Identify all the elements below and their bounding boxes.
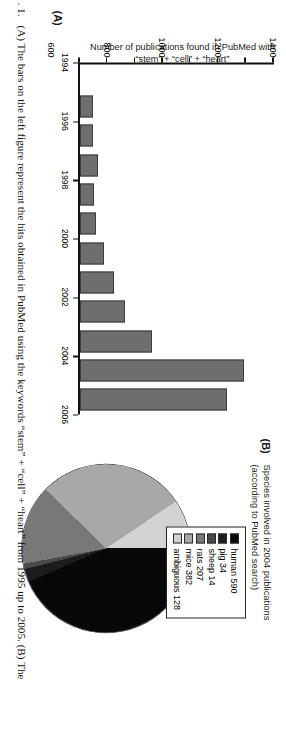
panel-b-tag: (B) [260,438,272,453]
rotated-figure-wrapper: (A) Number of publications found in PubM… [0,0,286,729]
legend-swatch-icon [173,533,182,543]
legend-row: ambiguous 128 [172,533,183,610]
x-tick: 1998 [73,179,78,180]
y-axis-label: Number of publications found in PubMed w… [88,42,278,65]
legend-row: human 590 [229,533,240,610]
bar [80,154,98,176]
y-tick-label: 600 [47,42,57,57]
y-tick-label: 1200 [213,37,223,57]
y-tick-label: 800 [102,42,112,57]
legend-label: ambiguous 128 [172,548,182,610]
legend-swatch-icon [207,533,216,543]
legend-label: mice 382 [184,548,194,585]
bar-plot-area: 0200400600800100012001400 19941996199820… [78,62,274,414]
x-tick-label: 1994 [60,52,70,71]
caption-number: . 1. [15,2,28,16]
y-tick: 600 [161,57,162,62]
bar [80,330,152,352]
panel-b-title-line2: (according to PubMed search) [249,464,261,714]
y-tick: 1400 [272,57,273,62]
x-tick: 2006 [73,414,78,415]
bar [80,124,94,146]
bar [80,242,104,264]
y-tick: 800 [189,57,190,62]
legend-row: pig 34 [217,533,228,610]
y-tick: 400 [134,57,135,62]
bar [80,95,93,117]
y-tick: 1200 [245,57,246,62]
panel-b-title-line1: Species involved in 2004 publications [261,464,273,714]
legend-row: sheep 14 [206,533,217,610]
pie-legend: human 590pig 34sheep 14rats 207mice 382a… [166,526,246,618]
figure-canvas: (A) Number of publications found in PubM… [0,0,286,729]
bar [80,212,97,234]
x-tick-label: 2004 [60,346,70,365]
panel-b-pie-chart: (B) Species involved in 2004 publication… [0,430,286,725]
legend-swatch-icon [230,533,239,543]
x-tick-label: 1996 [60,111,70,130]
y-tick: 1000 [217,57,218,62]
legend-row: mice 382 [183,533,194,610]
figure-caption: . 1.(A) The bars on the left figure repr… [15,0,28,729]
legend-label: pig 34 [218,548,228,573]
bar [80,388,228,410]
y-tick: 0 [78,57,79,62]
x-tick: 2002 [73,297,78,298]
legend-row: rats 207 [194,533,205,610]
legend-label: sheep 14 [207,548,217,585]
x-tick-label: 2000 [60,228,70,247]
x-tick: 2004 [73,355,78,356]
legend-swatch-icon [196,533,205,543]
y-tick-label: 1000 [157,37,167,57]
y-tick-label: 1400 [268,37,278,57]
x-tick: 1994 [73,62,78,63]
y-tick-label: 400 [0,42,1,57]
x-tick: 2000 [73,238,78,239]
panel-b-title: Species involved in 2004 publications (a… [249,464,273,714]
legend-label: rats 207 [195,548,205,581]
x-tick: 1996 [73,121,78,122]
bar [80,271,115,293]
legend-swatch-icon [184,533,193,543]
caption-text: (A) The bars on the left figure represen… [16,25,28,679]
x-tick-label: 2002 [60,287,70,306]
bar [80,359,245,381]
y-tick: 200 [106,57,107,62]
bar [80,183,95,205]
panel-a-bar-chart: (A) Number of publications found in PubM… [28,4,286,434]
panel-a-tag: (A) [52,10,64,25]
x-tick-label: 1998 [60,170,70,189]
x-tick-label: 2006 [60,404,70,423]
bar [80,300,126,322]
legend-swatch-icon [218,533,227,543]
legend-label: human 590 [229,548,239,593]
